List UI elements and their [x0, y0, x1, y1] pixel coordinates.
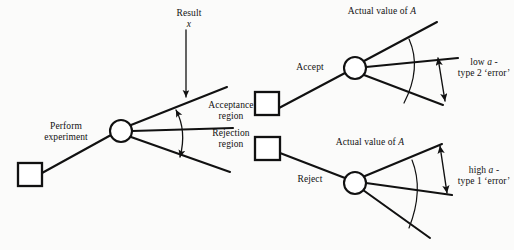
label-perform-experiment: Perform experiment: [30, 121, 102, 143]
label-accept: Accept: [288, 62, 332, 73]
chance-circle-accept: [344, 57, 366, 79]
edge-accept: [279, 73, 345, 108]
label-accept-text: Accept: [296, 62, 324, 72]
ray-reject-upper: [365, 144, 442, 176]
label-actual-value-top-text: Actual value of: [348, 6, 411, 16]
arrow-low-alpha-span: [438, 58, 445, 101]
arc-left-fan-span: [176, 110, 183, 157]
chance-circle-reject: [344, 172, 366, 194]
label-high-alpha-line2: type 1 ‘error’: [458, 176, 510, 186]
label-acceptance-region: Acceptance region: [200, 100, 262, 122]
ray-accept-middle: [366, 58, 458, 67]
label-actual-value-bottom-text: Actual value of: [336, 137, 399, 147]
label-actual-value-bottom-variable: A: [398, 137, 404, 147]
label-result-text: Result: [177, 8, 202, 18]
label-actual-value-top: Actual value of A: [330, 6, 434, 17]
label-high-alpha-type1: high a - type 1 ‘error’: [455, 165, 513, 187]
label-high-alpha-pre: high: [469, 165, 489, 175]
label-acceptance-line1: Acceptance: [208, 100, 253, 110]
label-low-alpha-type2: low a - type 2 ‘error’: [455, 57, 513, 79]
label-rejection-line2: region: [219, 139, 244, 149]
ray-accept-upper: [364, 22, 437, 61]
decision-square-left: [18, 163, 42, 186]
label-rejection-line1: Rejection: [212, 128, 249, 138]
label-perform-line2: experiment: [44, 132, 88, 142]
label-low-alpha-post: -: [492, 57, 498, 67]
chance-circle-left: [110, 120, 132, 142]
label-low-alpha-pre: low: [470, 57, 487, 67]
label-rejection-region: Rejection region: [200, 128, 262, 150]
label-perform-line1: Perform: [50, 121, 82, 131]
label-reject-text: Reject: [298, 174, 323, 184]
ray-accept-lower: [364, 75, 443, 105]
ray-reject-middle: [366, 183, 452, 195]
label-acceptance-line2: region: [219, 111, 244, 121]
diagram-canvas: Result x Perform experiment Acceptance r…: [0, 0, 514, 250]
label-low-alpha-line2: type 2 ‘error’: [458, 68, 510, 78]
label-high-alpha-post: -: [493, 165, 499, 175]
label-reject: Reject: [288, 174, 332, 185]
label-result-variable: x: [161, 19, 217, 30]
label-actual-value-top-variable: A: [410, 6, 416, 16]
ray-reject-lower: [363, 190, 430, 238]
arrow-high-alpha-span: [440, 146, 447, 193]
label-result: Result x: [161, 8, 217, 30]
label-actual-value-bottom: Actual value of A: [318, 137, 422, 148]
arc-reject-fan: [409, 160, 417, 228]
